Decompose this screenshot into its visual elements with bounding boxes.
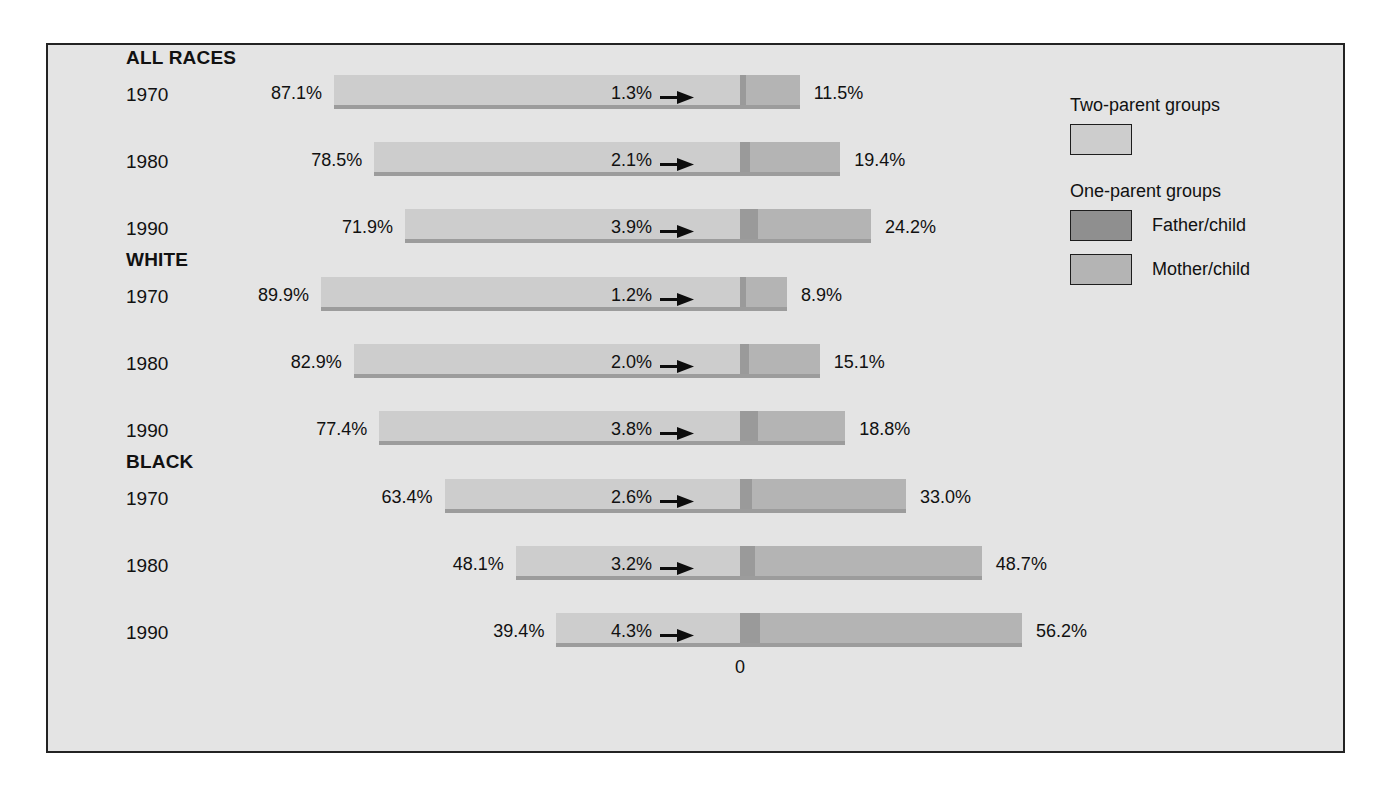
bar-segment-mother-child — [755, 546, 982, 576]
pointer-arrow-icon — [660, 292, 694, 305]
pointer-arrow-icon — [660, 561, 694, 574]
bar-segment-father-child — [740, 613, 760, 643]
father-child-value-label: 3.9% — [590, 217, 652, 238]
row-year-label: 1990 — [126, 622, 168, 644]
two-parent-value-label: 71.9% — [293, 217, 393, 238]
two-parent-value-label: 48.1% — [404, 554, 504, 575]
pointer-arrow-icon — [660, 359, 694, 372]
mother-child-value-label: 11.5% — [814, 83, 864, 104]
stacked-bar — [321, 277, 787, 311]
two-parent-value-label: 89.9% — [209, 285, 309, 306]
group-title: WHITE — [126, 249, 188, 271]
row-year-label: 1990 — [126, 420, 168, 442]
bar-shadow — [374, 172, 840, 176]
two-parent-value-label: 39.4% — [444, 621, 544, 642]
bar-segment-mother-child — [758, 411, 846, 441]
legend-label-mother-child: Mother/child — [1152, 259, 1250, 280]
bar-segment-father-child — [740, 344, 749, 374]
legend-group-two-parent: Two-parent groups — [1070, 95, 1320, 155]
chart-row: 198048.1%48.7%3.2% — [48, 546, 1343, 586]
bar-segment-father-child — [740, 546, 755, 576]
father-child-value-label: 3.2% — [590, 554, 652, 575]
stacked-bar — [516, 546, 982, 580]
group-title: BLACK — [126, 451, 194, 473]
two-parent-value-label: 82.9% — [242, 352, 342, 373]
chart-row: 199039.4%56.2%4.3% — [48, 613, 1343, 653]
legend-entry-mother-child: Mother/child — [1070, 254, 1320, 285]
two-parent-value-label: 63.4% — [333, 487, 433, 508]
father-child-value-label: 4.3% — [590, 621, 652, 642]
bar-shadow — [516, 576, 982, 580]
bar-segment-mother-child — [746, 277, 787, 307]
bar-segment-father-child — [740, 209, 758, 239]
mother-child-value-label: 48.7% — [996, 554, 1047, 575]
pointer-arrow-icon — [660, 628, 694, 641]
father-child-value-label: 1.3% — [590, 83, 652, 104]
bar-segment-mother-child — [749, 344, 819, 374]
row-year-label: 1980 — [126, 151, 168, 173]
two-parent-value-label: 87.1% — [222, 83, 322, 104]
mother-child-value-label: 18.8% — [859, 419, 910, 440]
legend-group-one-parent: One-parent groups Father/child Mother/ch… — [1070, 181, 1320, 285]
pointer-arrow-icon — [660, 224, 694, 237]
mother-child-value-label: 8.9% — [801, 285, 842, 306]
bar-shadow — [405, 239, 871, 243]
pointer-arrow-icon — [660, 494, 694, 507]
group-title: ALL RACES — [126, 47, 236, 69]
stacked-bar — [334, 75, 800, 109]
bar-shadow — [354, 374, 820, 378]
bar-segment-father-child — [740, 142, 750, 172]
bar-shadow — [334, 105, 800, 109]
pointer-arrow-icon — [660, 426, 694, 439]
mother-child-value-label: 19.4% — [854, 150, 905, 171]
bar-segment-mother-child — [750, 142, 840, 172]
legend-swatch-father-child — [1070, 210, 1132, 241]
two-parent-value-label: 78.5% — [262, 150, 362, 171]
chart-row: 197063.4%33.0%2.6% — [48, 479, 1343, 519]
bar-shadow — [321, 307, 787, 311]
father-child-value-label: 1.2% — [590, 285, 652, 306]
bar-segment-mother-child — [746, 75, 800, 105]
father-child-value-label: 2.6% — [590, 487, 652, 508]
legend-swatch-mother-child — [1070, 254, 1132, 285]
pointer-arrow-icon — [660, 90, 694, 103]
legend-title-one-parent: One-parent groups — [1070, 181, 1320, 202]
bar-segment-father-child — [740, 479, 752, 509]
pointer-arrow-icon — [660, 157, 694, 170]
zero-axis-label: 0 — [720, 657, 760, 678]
bar-segment-father-child — [740, 411, 758, 441]
row-year-label: 1970 — [126, 286, 168, 308]
mother-child-value-label: 15.1% — [834, 352, 885, 373]
legend-label-father-child: Father/child — [1152, 215, 1246, 236]
row-year-label: 1970 — [126, 84, 168, 106]
bar-segment-mother-child — [758, 209, 871, 239]
mother-child-value-label: 24.2% — [885, 217, 936, 238]
bar-shadow — [556, 643, 1022, 647]
bar-segment-mother-child — [760, 613, 1022, 643]
legend-title-two-parent: Two-parent groups — [1070, 95, 1320, 116]
chart-frame: ALL RACES197087.1%11.5%1.3%198078.5%19.4… — [46, 43, 1345, 753]
father-child-value-label: 2.0% — [590, 352, 652, 373]
mother-child-value-label: 33.0% — [920, 487, 971, 508]
legend-entry-father-child: Father/child — [1070, 210, 1320, 241]
chart-row: 199077.4%18.8%3.8% — [48, 411, 1343, 451]
mother-child-value-label: 56.2% — [1036, 621, 1087, 642]
chart-legend: Two-parent groups One-parent groups Fath… — [1070, 95, 1320, 311]
row-year-label: 1980 — [126, 555, 168, 577]
legend-swatch-two-parent — [1070, 124, 1132, 155]
chart-figure: ALL RACES197087.1%11.5%1.3%198078.5%19.4… — [0, 0, 1398, 802]
row-year-label: 1980 — [126, 353, 168, 375]
chart-row: 198082.9%15.1%2.0% — [48, 344, 1343, 384]
father-child-value-label: 2.1% — [590, 150, 652, 171]
legend-entry-two-parent — [1070, 124, 1320, 155]
row-year-label: 1990 — [126, 218, 168, 240]
father-child-value-label: 3.8% — [590, 419, 652, 440]
bar-segment-mother-child — [752, 479, 906, 509]
two-parent-value-label: 77.4% — [267, 419, 367, 440]
row-year-label: 1970 — [126, 488, 168, 510]
bar-shadow — [445, 509, 906, 513]
bar-shadow — [379, 441, 845, 445]
stacked-bar — [354, 344, 820, 378]
